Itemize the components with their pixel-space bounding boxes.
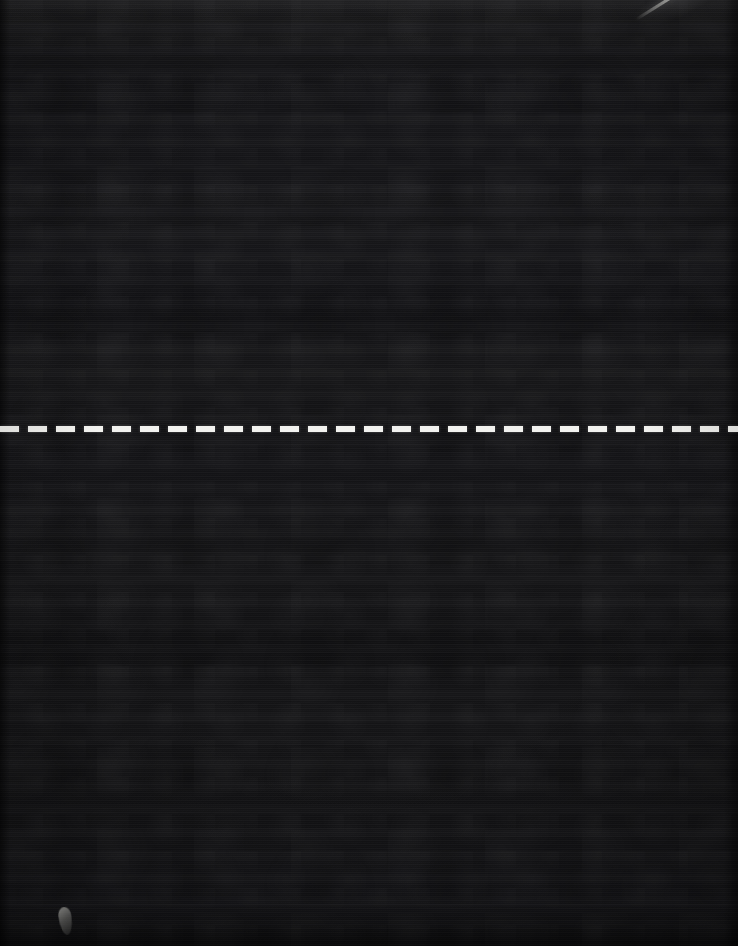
bottom-edge-shadow <box>0 906 738 946</box>
dark-background-surface <box>0 0 738 946</box>
left-edge-shadow <box>0 0 10 946</box>
top-edge-highlight <box>0 0 738 16</box>
right-edge-shadow <box>724 0 738 946</box>
image-canvas: Dark surface with white dashed horizonta… <box>0 0 738 946</box>
white-dashed-line <box>0 426 738 432</box>
